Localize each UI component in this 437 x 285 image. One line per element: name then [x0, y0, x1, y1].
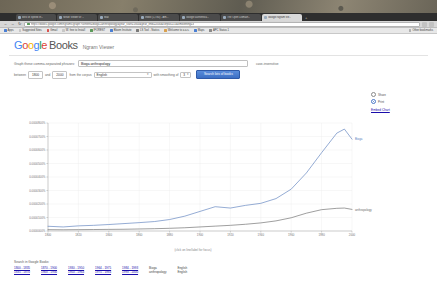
series-label-anthropology[interactable]: anthropology [355, 208, 372, 212]
bookmark-item[interactable]: LS Tool - Statics [136, 29, 159, 33]
bookmark-item[interactable]: Suggested Sites [19, 29, 42, 33]
lock-icon [27, 23, 30, 26]
query-label: Graph these comma-separated phrases: [14, 62, 75, 66]
bookmark-icon [194, 29, 197, 32]
x-tick-label: 1980 [318, 233, 325, 237]
chart-series-labels[interactable]: Biogaanthropology [355, 137, 372, 211]
y-tick-label: 0.0000600% [29, 148, 46, 152]
x-tick-label: 1820 [75, 233, 82, 237]
year-start-input[interactable]: 1800 [28, 71, 43, 79]
browser-tab[interactable]: Inbox (1,780) - Am... [139, 14, 179, 21]
search-books-range-link[interactable]: 1950 - 1964 [68, 270, 84, 274]
search-books-column: 1984 - 19931993 - 2000 [122, 266, 138, 275]
x-tick-label: 1800 [45, 233, 52, 237]
search-books-range-link[interactable]: 1900 - 1930 [41, 270, 57, 274]
y-tick-label: 0.0000700% [29, 135, 46, 139]
chart-y-axis: 0.0000800%0.0000700%0.0000600%0.0000500%… [29, 121, 48, 233]
options-row: between 1800 and 2000 from the corpus En… [0, 67, 437, 79]
search-in-google-books: Search in Google Books: 1800 - 18351835 … [14, 260, 414, 275]
bookmark-label: Welcome to a.a.s. [168, 29, 189, 33]
smoothing-label: with smoothing of [154, 73, 179, 77]
menu-icon[interactable] [429, 22, 434, 27]
tab-label: Inbox (1,780) - Am... [145, 16, 169, 19]
print-option[interactable]: Print [371, 99, 431, 104]
bookmark-item[interactable]: Apps [4, 29, 14, 33]
embed-chart-link[interactable]: Embed Chart [371, 108, 390, 112]
smoothing-value: 3 [183, 72, 185, 78]
other-bookmarks-item[interactable]: Other bookmarks [409, 29, 433, 33]
search-button[interactable]: Search lots of books [196, 70, 240, 79]
ngram-chart[interactable]: 0.0000800%0.0000700%0.0000600%0.0000500%… [14, 119, 386, 247]
logo-letter: e [41, 39, 47, 51]
address-bar[interactable]: https://books.google.com/ngrams/graph?co… [24, 22, 420, 27]
corpus-select[interactable]: English ▾ [94, 72, 152, 78]
smoothing-select[interactable]: 3 ▾ [180, 72, 191, 78]
bookmark-icon [4, 29, 7, 32]
search-books-value: English [177, 270, 187, 274]
year-end-input[interactable]: 2000 [52, 71, 67, 79]
x-tick-label: 1920 [227, 233, 234, 237]
bookmark-item[interactable]: Maps [194, 29, 204, 33]
search-books-range-link[interactable]: 1993 - 2000 [122, 270, 138, 274]
corpus-label: from the corpus [69, 73, 91, 77]
star-icon[interactable] [422, 22, 427, 27]
chart-svg: 0.0000800%0.0000700%0.0000600%0.0000500%… [14, 119, 386, 247]
case-insensitive-label[interactable]: case-insensitive [256, 62, 279, 66]
bookmark-icon [110, 29, 113, 32]
browser-tab[interactable]: Best of Speed In... [16, 14, 56, 21]
page-title: Ngram Viewer [83, 44, 115, 50]
share-option[interactable]: Share [371, 92, 431, 97]
search-books-title: Search in Google Books: [14, 260, 414, 264]
bookmark-label: LS Tool - Statics [140, 29, 159, 33]
google-books-logo[interactable]: GoogleBooks [14, 39, 78, 51]
search-books-range-link[interactable]: 1835 - 1870 [14, 270, 30, 274]
browser-tab[interactable]: Ninan Viewer of ... [57, 14, 97, 21]
reload-icon[interactable]: ↻ [17, 22, 22, 27]
y-tick-label: 0.0000200% [29, 202, 46, 206]
x-tick-label: 1940 [258, 233, 265, 237]
chevron-down-icon: ▾ [187, 72, 189, 78]
logo-letter: G [14, 39, 22, 51]
browser-tab[interactable]: Mail [98, 14, 138, 21]
tab-favicon-icon [100, 16, 103, 19]
bookmark-label: W. free to Install [66, 29, 85, 33]
page-content: GoogleBooks Ngram Viewer Graph these com… [0, 34, 437, 285]
browser-navbar: ← → ↻ https://books.google.com/ngrams/gr… [0, 21, 437, 28]
bookmark-item[interactable]: Gmail [47, 29, 58, 33]
bookmark-item[interactable]: W. free to Install [62, 29, 85, 33]
forward-icon[interactable]: → [10, 22, 15, 27]
back-icon[interactable]: ← [3, 22, 8, 27]
tab-label: Google Ngram Vie... [268, 16, 291, 19]
browser-tab[interactable]: The Open Domain... [221, 14, 261, 21]
bookmark-item[interactable]: Welcome to a.a.s. [164, 29, 189, 33]
search-books-column: EnglishEnglish [177, 266, 187, 275]
logo-books-word: Books [49, 39, 78, 51]
x-tick-label: 1860 [136, 233, 143, 237]
search-books-range-link[interactable]: 1975 - 1984 [95, 270, 111, 274]
bookmark-icon [62, 29, 65, 32]
series-label-bioga[interactable]: Bioga [355, 137, 363, 141]
browser-tab[interactable]: Google authentica... [180, 14, 220, 21]
tab-label: Google authentica... [186, 16, 209, 19]
chart-gridlines [48, 123, 352, 231]
bookmark-icon [47, 29, 50, 32]
bookmark-item[interactable]: Bloom Institute [110, 29, 131, 33]
tab-label: Best of Speed In... [22, 16, 43, 19]
bookmark-item[interactable]: APC Status 1 [209, 29, 229, 33]
search-books-column: 1870 - 19001900 - 1930 [41, 266, 57, 275]
bookmark-icon [136, 29, 139, 32]
browser-tab-active[interactable]: Google Ngram Vie... [262, 14, 302, 21]
between-label: between [14, 73, 26, 77]
tab-favicon-icon [182, 16, 185, 19]
bookmark-label: APC Status 1 [213, 29, 229, 33]
bookmark-icon [209, 29, 212, 32]
bookmark-label: IFOREST [94, 29, 106, 33]
folder-icon [409, 29, 412, 32]
x-tick-label: 1900 [197, 233, 204, 237]
bookmark-icon [19, 29, 22, 32]
tab-label: Ninan Viewer of ... [63, 16, 84, 19]
radio-icon-selected [371, 99, 376, 104]
bookmark-item[interactable]: IFOREST [90, 29, 105, 33]
query-input[interactable]: Bioga anthropology [78, 60, 248, 67]
search-books-columns: 1800 - 18351835 - 18701870 - 19001900 - … [14, 266, 414, 275]
